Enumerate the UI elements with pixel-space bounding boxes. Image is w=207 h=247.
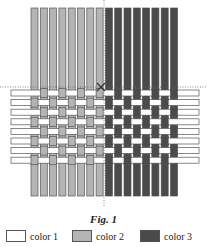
vertical-strip-crossing <box>96 127 103 136</box>
vertical-strip-crossing <box>50 98 57 107</box>
vertical-strip-crossing <box>68 156 75 165</box>
vertical-strip-crossing <box>59 89 66 98</box>
vertical-strip-crossing <box>31 137 38 146</box>
vertical-strip-crossing <box>115 108 122 117</box>
vertical-strip-crossing <box>133 127 140 136</box>
vertical-strip-crossing <box>161 137 168 146</box>
vertical-strip-crossing <box>78 108 85 117</box>
vertical-strip-crossing <box>59 146 66 155</box>
vertical-strip-crossing <box>105 156 112 165</box>
vertical-strip-crossing <box>87 98 94 107</box>
vertical-strip-crossing <box>87 137 94 146</box>
legend-item-color-2: color 2 <box>72 229 124 243</box>
vertical-strip-crossing <box>171 108 178 117</box>
vertical-strip-crossing <box>143 98 150 107</box>
vertical-strip-crossing <box>40 89 47 98</box>
horizontal-strip <box>11 138 199 144</box>
vertical-strip-crossing <box>31 156 38 165</box>
vertical-strip-crossing <box>152 89 159 98</box>
vertical-strip-crossing <box>152 108 159 117</box>
vertical-strip-crossing <box>50 117 57 126</box>
figure-caption: Fig. 1 <box>0 213 207 225</box>
vertical-strip-crossing <box>105 137 112 146</box>
vertical-strip-crossing <box>68 117 75 126</box>
horizontal-strip <box>11 100 199 106</box>
vertical-strip-crossing <box>171 127 178 136</box>
vertical-strip-crossing <box>87 156 94 165</box>
vertical-strip-crossing <box>40 108 47 117</box>
vertical-strip-crossing <box>171 146 178 155</box>
vertical-strip-crossing <box>143 137 150 146</box>
swatch-color-3 <box>140 230 160 242</box>
vertical-strip-crossing <box>133 89 140 98</box>
vertical-strip-crossing <box>143 117 150 126</box>
vertical-strip-crossing <box>143 156 150 165</box>
weave-diagram <box>0 0 207 247</box>
vertical-strip-crossing <box>68 98 75 107</box>
vertical-strip-crossing <box>59 127 66 136</box>
vertical-strip-crossing <box>78 127 85 136</box>
vertical-strip-crossing <box>161 156 168 165</box>
vertical-strip-crossing <box>87 117 94 126</box>
vertical-strip-crossing <box>115 146 122 155</box>
vertical-strip-crossing <box>161 117 168 126</box>
vertical-strip-crossing <box>115 89 122 98</box>
vertical-strip-crossing <box>40 146 47 155</box>
horizontal-strip <box>11 157 199 163</box>
vertical-strip-crossing <box>105 117 112 126</box>
vertical-strip-crossing <box>50 137 57 146</box>
legend-label: color 3 <box>164 231 192 242</box>
vertical-strip-crossing <box>31 98 38 107</box>
legend: color 1 color 2 color 3 <box>0 229 207 245</box>
vertical-strip-crossing <box>124 117 131 126</box>
legend-item-color-3: color 3 <box>140 229 192 243</box>
horizontal-strip <box>11 119 199 125</box>
vertical-strip-crossing <box>78 146 85 155</box>
vertical-strip-crossing <box>96 146 103 155</box>
legend-label: color 1 <box>30 231 58 242</box>
vertical-strip-crossing <box>171 89 178 98</box>
vertical-strip-crossing <box>152 146 159 155</box>
vertical-strip-crossing <box>105 98 112 107</box>
vertical-strip-crossing <box>124 156 131 165</box>
vertical-strip-crossing <box>152 127 159 136</box>
swatch-color-1 <box>6 230 26 242</box>
swatch-color-2 <box>72 230 92 242</box>
vertical-strip-crossing <box>96 108 103 117</box>
vertical-strip-crossing <box>40 127 47 136</box>
vertical-strip-crossing <box>31 117 38 126</box>
vertical-strip-crossing <box>124 98 131 107</box>
legend-item-color-1: color 1 <box>6 229 58 243</box>
vertical-strip-crossing <box>96 89 103 98</box>
vertical-strip-crossing <box>133 146 140 155</box>
legend-label: color 2 <box>96 231 124 242</box>
vertical-strip-crossing <box>50 156 57 165</box>
vertical-strip-crossing <box>115 127 122 136</box>
vertical-strip-crossing <box>133 108 140 117</box>
vertical-strip-crossing <box>78 89 85 98</box>
vertical-strip-crossing <box>124 137 131 146</box>
vertical-strip-crossing <box>59 108 66 117</box>
vertical-strip-crossing <box>161 98 168 107</box>
vertical-strip-crossing <box>68 137 75 146</box>
